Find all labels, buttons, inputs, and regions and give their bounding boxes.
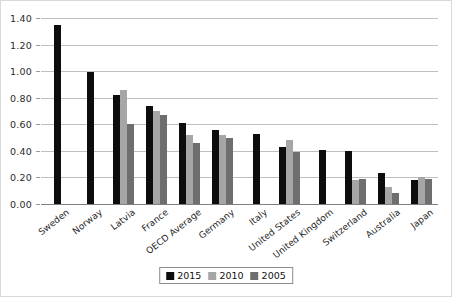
x-axis-tick-label: United Kingdom [271,207,335,260]
bar-group [405,18,438,204]
bar[interactable] [120,90,127,204]
legend-swatch-icon [208,272,216,280]
y-axis-tick [36,18,40,19]
bar[interactable] [253,134,260,204]
y-axis-tick [36,151,40,152]
bar[interactable] [352,180,359,204]
legend-label: 2005 [262,270,286,281]
y-axis-tick-label: 0.20 [10,172,32,183]
bar-group [140,18,173,204]
bar[interactable] [418,177,425,204]
bar[interactable] [146,106,153,204]
y-axis-tick [36,98,40,99]
bar-group [306,18,339,204]
y-axis-tick [36,45,40,46]
bar[interactable] [319,150,326,204]
legend-label: 2010 [219,270,243,281]
bar[interactable] [219,135,226,204]
x-axis-tick-label: Italy [248,207,270,227]
bar[interactable] [186,135,193,204]
bar[interactable] [345,151,352,204]
bar[interactable] [293,152,300,204]
y-axis-tick-label: 0.40 [10,145,32,156]
legend-swatch-icon [251,272,259,280]
bar-group [41,18,74,204]
bar[interactable] [378,173,385,204]
y-axis-tick-label: 1.00 [10,66,32,77]
bar[interactable] [212,130,219,204]
plot-area: 0.000.200.400.600.801.001.201.40 [41,18,438,204]
y-axis-tick [36,204,40,205]
legend-item[interactable]: 2005 [251,270,286,281]
y-axis-tick-label: 0.80 [10,92,32,103]
y-axis-tick-label: 1.20 [10,39,32,50]
x-axis-tick-label: France [140,207,170,234]
chart-legend: 201520102005 [159,267,293,284]
x-axis-tick-label: Latvia [109,207,137,232]
bar[interactable] [425,179,432,204]
x-axis-tick-label: Norway [71,207,105,236]
bar-group [372,18,405,204]
bar-group [107,18,140,204]
bar-group [173,18,206,204]
bar[interactable] [113,95,120,204]
x-axis-line [41,204,438,205]
legend-swatch-icon [166,272,174,280]
bar[interactable] [226,138,233,204]
bar-group [339,18,372,204]
bar[interactable] [385,187,392,204]
legend-item[interactable]: 2010 [208,270,243,281]
chart-frame: 0.000.200.400.600.801.001.201.40 SwedenN… [0,0,452,297]
bar-group [74,18,107,204]
bar[interactable] [392,193,399,204]
bar-group [206,18,239,204]
y-axis-tick [36,177,40,178]
legend-label: 2015 [177,270,201,281]
bar[interactable] [153,111,160,204]
y-axis-tick-label: 0.60 [10,119,32,130]
y-axis-tick-label: 1.40 [10,13,32,24]
bar[interactable] [87,72,94,204]
bar[interactable] [127,124,134,204]
x-axis-tick-label: Australia [364,207,402,240]
bar[interactable] [160,115,167,204]
y-axis-tick [36,124,40,125]
x-axis-labels: SwedenNorwayLatviaFranceOECD AverageGerm… [1,207,452,267]
bar[interactable] [359,179,366,204]
bar[interactable] [411,180,418,204]
bar[interactable] [179,123,186,204]
bar-group [240,18,273,204]
y-axis-tick [36,71,40,72]
bar[interactable] [54,25,61,204]
bar-group [273,18,306,204]
x-axis-tick-label: Germany [197,207,236,241]
bar[interactable] [286,140,293,204]
x-axis-tick-label: Japan [409,207,435,231]
bar[interactable] [279,147,286,204]
x-axis-tick-label: Sweden [36,207,71,237]
legend-item[interactable]: 2015 [166,270,201,281]
bar[interactable] [193,143,200,204]
